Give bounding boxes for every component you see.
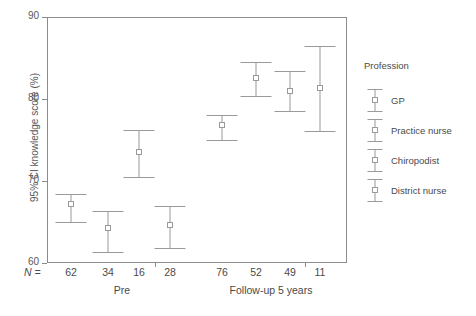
error-bar-lower-cap (155, 248, 186, 249)
legend-item[interactable]: Practice nurse (364, 115, 476, 145)
legend-lower-cap (368, 171, 383, 172)
y-tick-label: 90 (28, 10, 39, 21)
mean-marker (167, 222, 173, 228)
legend-label: Practice nurse (391, 125, 452, 136)
error-bar-point (88, 211, 128, 251)
y-tick: 80 (0, 99, 47, 100)
legend-mean-marker (372, 97, 378, 103)
mean-marker (136, 149, 142, 155)
y-tick: 90 (0, 17, 47, 18)
legend-item[interactable]: Chiropodist (364, 145, 476, 175)
legend-mean-marker (372, 157, 378, 163)
n-value: 11 (300, 266, 340, 278)
error-bar-upper-cap (207, 115, 238, 116)
error-bar-upper-cap (124, 130, 155, 131)
legend-mean-marker (372, 187, 378, 193)
error-bar-lower-cap (241, 96, 272, 97)
y-tick: 60 (0, 263, 47, 264)
error-bar-point (51, 194, 91, 222)
mean-marker (253, 75, 259, 81)
legend-marker-icon (364, 147, 386, 173)
error-bar-point (202, 115, 242, 140)
error-bar-point (300, 46, 340, 131)
mean-marker (105, 225, 111, 231)
error-bar-lower-cap (56, 222, 87, 223)
y-tick: 70 (0, 181, 47, 182)
chart-root: 95% CI knowledge score (%) 60708090 N = … (0, 0, 476, 316)
n-row-label: N = (24, 266, 41, 278)
x-group-label: Pre (42, 284, 202, 296)
error-bar-point (119, 130, 159, 177)
n-value: 62 (51, 266, 91, 278)
error-bar-stem (108, 211, 109, 251)
y-tick-line (42, 17, 47, 18)
y-tick-line (42, 181, 47, 182)
legend-upper-cap (368, 89, 383, 90)
y-tick-line (42, 263, 47, 264)
error-bar-lower-cap (305, 131, 336, 132)
legend-upper-cap (368, 149, 383, 150)
y-tick-label: 80 (28, 92, 39, 103)
error-bar-stem (71, 194, 72, 222)
error-bar-lower-cap (93, 252, 124, 253)
error-bar-upper-cap (241, 62, 272, 63)
y-tick-line (42, 99, 47, 100)
error-bar-upper-cap (56, 194, 87, 195)
mean-marker (219, 122, 225, 128)
legend-title: Profession (364, 60, 476, 71)
error-bar-upper-cap (93, 211, 124, 212)
error-bar-lower-cap (207, 140, 238, 141)
x-group-label: Follow-up 5 years (191, 284, 351, 296)
legend-lower-cap (368, 111, 383, 112)
legend-label: GP (391, 95, 405, 106)
legend-lower-cap (368, 201, 383, 202)
error-bar-upper-cap (305, 46, 336, 47)
error-bar-point (150, 206, 190, 248)
legend-item[interactable]: District nurse (364, 175, 476, 205)
n-value: 28 (150, 266, 190, 278)
legend-marker-icon (364, 87, 386, 113)
error-bar-lower-cap (124, 177, 155, 178)
legend-label: Chiropodist (391, 155, 439, 166)
legend-marker-icon (364, 117, 386, 143)
legend-upper-cap (368, 119, 383, 120)
mean-marker (317, 85, 323, 91)
legend-item[interactable]: GP (364, 85, 476, 115)
mean-marker (287, 88, 293, 94)
legend-entries: GPPractice nurseChiropodistDistrict nurs… (364, 85, 476, 205)
legend-lower-cap (368, 141, 383, 142)
error-bar-upper-cap (155, 206, 186, 207)
legend-mean-marker (372, 127, 378, 133)
y-axis-title: 95% CI knowledge score (%) (29, 28, 40, 248)
y-tick-label: 70 (28, 174, 39, 185)
legend: Profession GPPractice nurseChiropodistDi… (364, 60, 476, 205)
legend-label: District nurse (391, 185, 446, 196)
mean-marker (68, 201, 74, 207)
legend-upper-cap (368, 179, 383, 180)
legend-marker-icon (364, 177, 386, 203)
